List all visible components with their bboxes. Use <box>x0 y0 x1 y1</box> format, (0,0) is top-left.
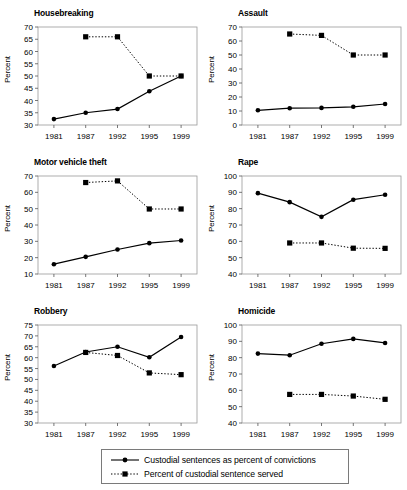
svg-text:1999: 1999 <box>172 132 190 141</box>
plot-area: Percent 30354045505560657019811987199219… <box>0 19 203 158</box>
plot-svg: 3035404550556065707519811987199219951999 <box>0 317 203 456</box>
svg-text:1987: 1987 <box>281 132 299 141</box>
panel-robbery: Robbery Percent 303540455055606570751981… <box>0 306 203 456</box>
svg-text:60: 60 <box>228 237 237 246</box>
svg-text:1981: 1981 <box>45 281 63 290</box>
svg-text:20: 20 <box>24 254 33 263</box>
legend-label: Custodial sentences as percent of convic… <box>144 455 316 465</box>
svg-text:40: 40 <box>24 397 33 406</box>
svg-text:1987: 1987 <box>77 281 95 290</box>
svg-text:70: 70 <box>24 172 33 181</box>
panel-title: Housebreaking <box>34 8 93 18</box>
svg-text:1987: 1987 <box>281 281 299 290</box>
svg-text:1992: 1992 <box>109 281 127 290</box>
plot-svg: 40506070809010019811987199219951999 <box>204 317 407 456</box>
solid-line-circle-marker-icon <box>110 454 140 466</box>
panel-title: Motor vehicle theft <box>34 157 107 167</box>
svg-text:1995: 1995 <box>140 430 158 439</box>
svg-text:20: 20 <box>228 93 237 102</box>
svg-text:90: 90 <box>228 188 237 197</box>
panel-title: Rape <box>238 157 258 167</box>
plot-area: Percent 10203040506070198119871992199519… <box>0 168 203 307</box>
svg-text:45: 45 <box>24 84 33 93</box>
plot-area: Percent 40506070809010019811987199219951… <box>204 168 407 307</box>
svg-text:1995: 1995 <box>140 132 158 141</box>
plot-area: Percent 40506070809010019811987199219951… <box>204 317 407 456</box>
svg-text:30: 30 <box>24 419 33 428</box>
svg-text:1999: 1999 <box>376 430 394 439</box>
plot-svg: 01020304050607019811987199219951999 <box>204 19 407 158</box>
svg-text:1992: 1992 <box>313 430 331 439</box>
svg-text:65: 65 <box>24 343 33 352</box>
panel-motor-vehicle-theft: Motor vehicle theft Percent 102030405060… <box>0 157 203 307</box>
svg-text:60: 60 <box>228 37 237 46</box>
svg-text:1992: 1992 <box>109 430 127 439</box>
svg-text:0: 0 <box>233 121 238 130</box>
legend-item-custodial-sentences: Custodial sentences as percent of convic… <box>110 453 316 467</box>
panel-title: Assault <box>238 8 268 18</box>
svg-text:100: 100 <box>224 172 238 181</box>
svg-text:50: 50 <box>24 72 33 81</box>
svg-text:75: 75 <box>24 321 33 330</box>
svg-text:55: 55 <box>24 60 33 69</box>
svg-text:1999: 1999 <box>376 132 394 141</box>
svg-text:10: 10 <box>228 107 237 116</box>
svg-text:50: 50 <box>228 254 237 263</box>
legend-item-sentence-served: Percent of custodial sentence served <box>110 467 283 481</box>
svg-text:35: 35 <box>24 109 33 118</box>
svg-text:50: 50 <box>24 205 33 214</box>
svg-text:70: 70 <box>24 332 33 341</box>
svg-text:40: 40 <box>228 65 237 74</box>
svg-text:60: 60 <box>24 354 33 363</box>
svg-text:50: 50 <box>228 51 237 60</box>
panel-housebreaking: Housebreaking Percent 303540455055606570… <box>0 8 203 158</box>
svg-text:1999: 1999 <box>172 430 190 439</box>
svg-text:100: 100 <box>224 321 238 330</box>
svg-text:1999: 1999 <box>172 281 190 290</box>
plot-svg: 40506070809010019811987199219951999 <box>204 168 407 307</box>
svg-text:30: 30 <box>228 79 237 88</box>
panel-homicide: Homicide Percent 40506070809010019811987… <box>204 306 407 456</box>
panel-assault: Assault Percent 010203040506070198119871… <box>204 8 407 158</box>
svg-text:1987: 1987 <box>77 132 95 141</box>
svg-text:55: 55 <box>24 365 33 374</box>
svg-text:10: 10 <box>24 270 33 279</box>
crime-sentencing-multipanel-figure: Housebreaking Percent 303540455055606570… <box>0 0 407 490</box>
svg-text:1981: 1981 <box>249 132 267 141</box>
svg-text:90: 90 <box>228 337 237 346</box>
svg-text:1992: 1992 <box>313 281 331 290</box>
dotted-line-square-marker-icon <box>110 468 140 480</box>
svg-text:1995: 1995 <box>344 430 362 439</box>
svg-text:1981: 1981 <box>45 430 63 439</box>
legend-label: Percent of custodial sentence served <box>144 469 283 479</box>
panel-title: Robbery <box>34 306 67 316</box>
svg-text:50: 50 <box>24 375 33 384</box>
svg-text:1981: 1981 <box>249 430 267 439</box>
svg-text:70: 70 <box>228 23 237 32</box>
svg-text:65: 65 <box>24 35 33 44</box>
svg-text:70: 70 <box>228 370 237 379</box>
svg-text:40: 40 <box>24 221 33 230</box>
plot-svg: 1020304050607019811987199219951999 <box>0 168 203 307</box>
svg-text:40: 40 <box>24 97 33 106</box>
svg-text:1995: 1995 <box>344 281 362 290</box>
svg-text:60: 60 <box>24 188 33 197</box>
svg-text:1995: 1995 <box>344 132 362 141</box>
plot-area: Percent 30354045505560657075198119871992… <box>0 317 203 456</box>
svg-text:40: 40 <box>228 419 237 428</box>
svg-text:35: 35 <box>24 408 33 417</box>
svg-text:1987: 1987 <box>77 430 95 439</box>
plot-area: Percent 01020304050607019811987199219951… <box>204 19 407 158</box>
svg-text:1999: 1999 <box>376 281 394 290</box>
svg-text:30: 30 <box>24 121 33 130</box>
svg-text:70: 70 <box>228 221 237 230</box>
svg-text:30: 30 <box>24 237 33 246</box>
svg-text:40: 40 <box>228 270 237 279</box>
svg-text:45: 45 <box>24 386 33 395</box>
svg-text:1987: 1987 <box>281 430 299 439</box>
svg-text:80: 80 <box>228 354 237 363</box>
legend: Custodial sentences as percent of convic… <box>101 449 349 484</box>
svg-text:50: 50 <box>228 403 237 412</box>
panel-rape: Rape Percent 405060708090100198119871992… <box>204 157 407 307</box>
svg-text:1995: 1995 <box>140 281 158 290</box>
